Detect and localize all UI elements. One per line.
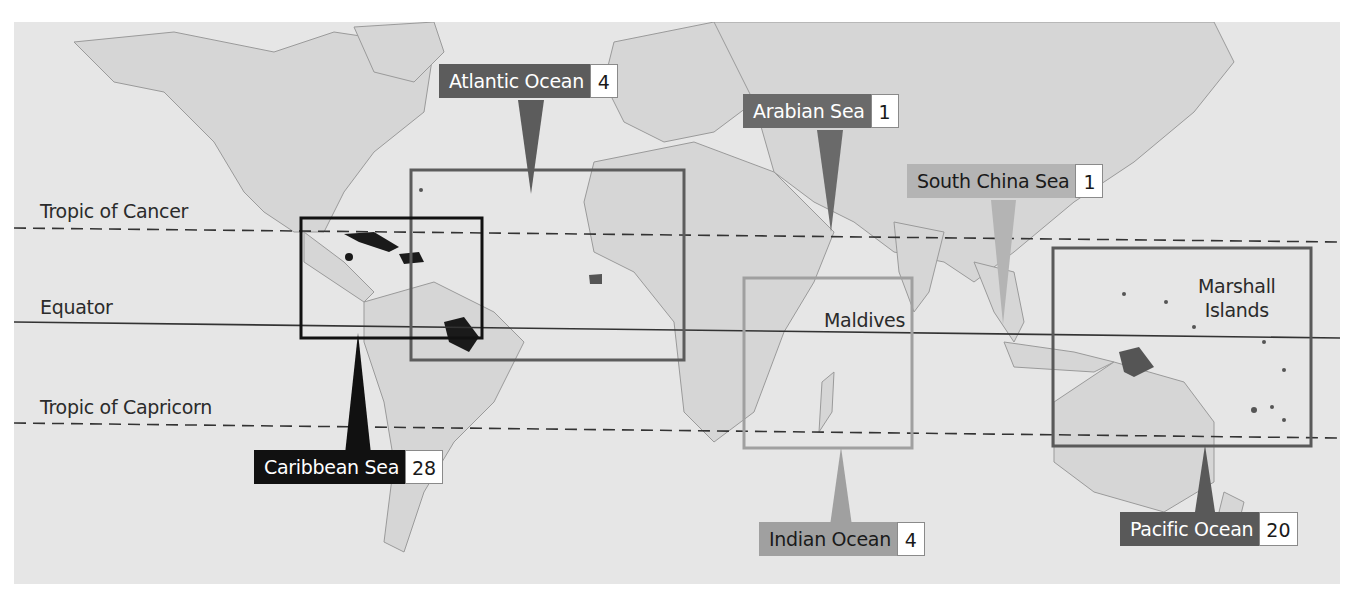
- pacific-count: 20: [1259, 512, 1297, 546]
- australia-land: [1054, 362, 1214, 512]
- equator-label: Equator: [40, 296, 113, 318]
- madagascar-land: [819, 372, 834, 432]
- world-map: Tropic of Cancer Equator Tropic of Capri…: [14, 22, 1340, 584]
- arabian-callout: Arabian Sea 1: [743, 94, 899, 128]
- south-china-count: 1: [1075, 164, 1103, 198]
- pacific-callout: Pacific Ocean 20: [1120, 512, 1298, 546]
- south-america-land: [364, 282, 524, 552]
- arabian-name: Arabian Sea: [743, 94, 871, 128]
- southeast-asia-land: [974, 262, 1114, 372]
- marshall-line2: Islands: [1198, 298, 1276, 322]
- caribbean-name: Caribbean Sea: [254, 450, 405, 484]
- atlantic-pointer: [518, 100, 544, 194]
- south-china-name: South China Sea: [907, 164, 1075, 198]
- tropic-of-cancer-label: Tropic of Cancer: [40, 200, 188, 222]
- arabian-count: 1: [871, 94, 899, 128]
- tropic-of-capricorn-label: Tropic of Capricorn: [40, 396, 212, 418]
- atlantic-callout: Atlantic Ocean 4: [439, 64, 618, 98]
- caribbean-count: 28: [405, 450, 443, 484]
- map-graphics: [14, 22, 1340, 584]
- indian-name: Indian Ocean: [759, 522, 897, 556]
- indian-callout: Indian Ocean 4: [759, 522, 925, 556]
- guinea-bissau-highlight: [589, 274, 602, 284]
- pacific-name: Pacific Ocean: [1120, 512, 1259, 546]
- indian-count: 4: [897, 522, 925, 556]
- maldives-label: Maldives: [824, 308, 905, 332]
- atlantic-count: 4: [590, 64, 618, 98]
- marshall-line1: Marshall: [1198, 274, 1276, 298]
- cuba-highlight: [344, 232, 399, 252]
- marshall-islands-label: Marshall Islands: [1198, 274, 1276, 322]
- atlantic-name: Atlantic Ocean: [439, 64, 590, 98]
- india-land: [894, 222, 944, 312]
- south-china-callout: South China Sea 1: [907, 164, 1103, 198]
- caribbean-callout: Caribbean Sea 28: [254, 450, 443, 484]
